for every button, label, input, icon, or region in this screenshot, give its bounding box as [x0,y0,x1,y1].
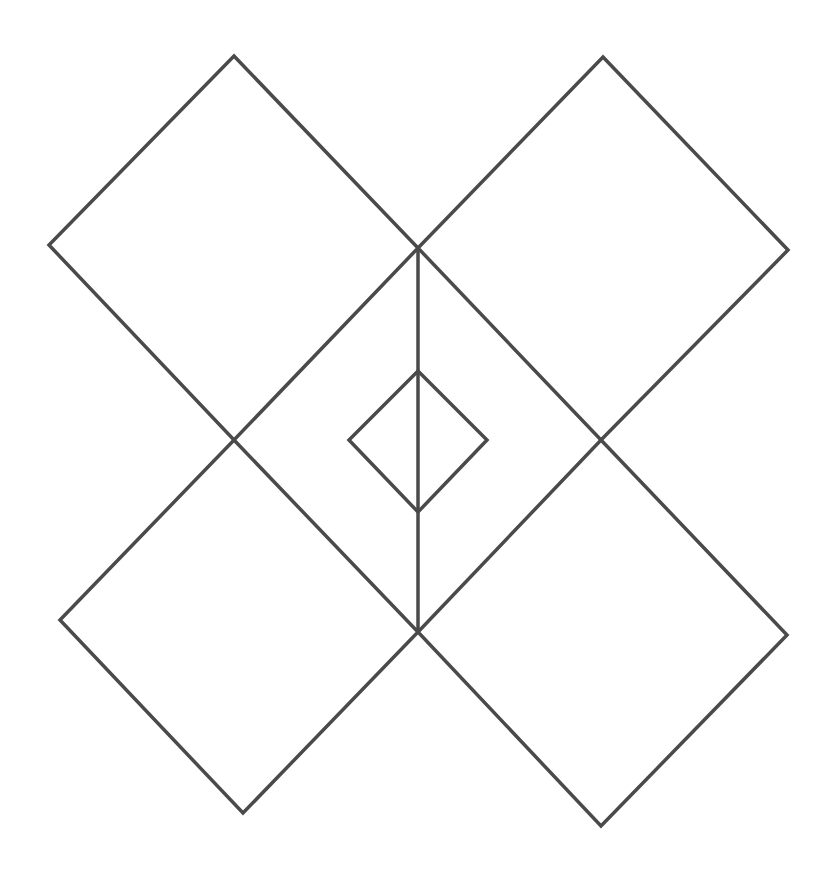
geometric-diagram [0,0,835,873]
